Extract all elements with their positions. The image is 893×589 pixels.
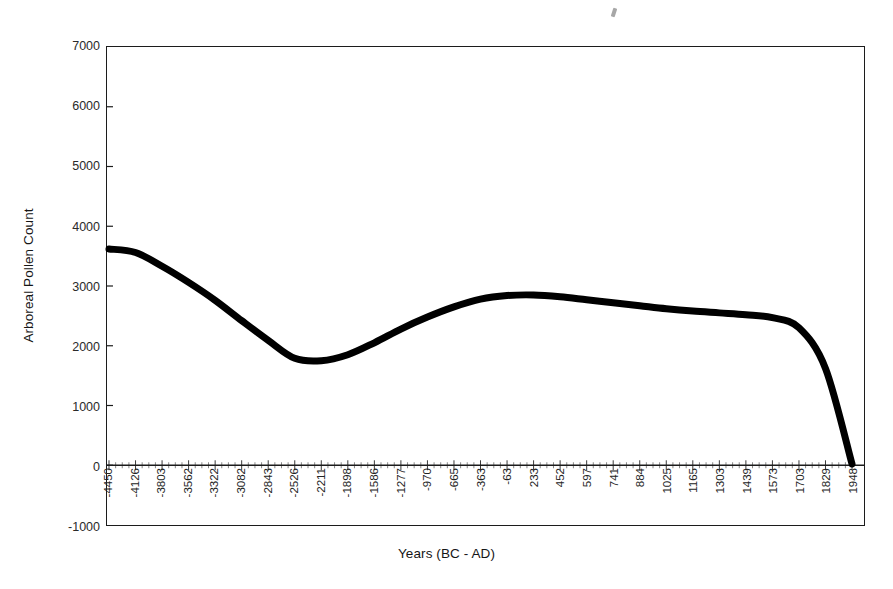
x-tick-label-text: -4450 <box>104 468 113 528</box>
y-tick-label: 4000 <box>38 221 100 234</box>
x-tick-label-text: -1586 <box>370 468 379 528</box>
y-tick-label: 3000 <box>38 281 100 294</box>
x-tick-label-text: -2526 <box>290 468 299 528</box>
y-tick-label: 1000 <box>38 401 100 414</box>
y-tick-label: -1000 <box>38 521 100 534</box>
x-tick-label-text: 1703 <box>796 468 805 528</box>
x-tick-label-text: -4126 <box>131 468 140 528</box>
x-tick-label-text: -1277 <box>397 468 406 528</box>
y-axis-tick-marks <box>107 107 113 466</box>
x-tick-label-text: 1025 <box>663 468 672 528</box>
x-tick-label-text: 1165 <box>689 468 698 528</box>
scan-artifact-mark <box>611 8 618 18</box>
x-tick-label-text: 1829 <box>822 468 831 528</box>
x-tick-label-text: -970 <box>423 468 432 528</box>
x-tick-label-text: 597 <box>583 468 592 528</box>
data-series-line <box>109 249 852 464</box>
x-axis-tick-labels: -4450-4126-3803-3562-3322-3082-2843-2526… <box>106 470 865 530</box>
x-tick-label-text: -63 <box>503 468 512 528</box>
y-tick-label: 2000 <box>38 341 100 354</box>
x-tick-label-text: 1439 <box>743 468 752 528</box>
x-tick-label-text: -363 <box>477 468 486 528</box>
x-tick-label-text: 884 <box>636 468 645 528</box>
x-tick-label-text: -3082 <box>237 468 246 528</box>
x-axis-title: Years (BC - AD) <box>0 546 893 561</box>
x-tick-label-text: 233 <box>530 468 539 528</box>
y-tick-label: 6000 <box>38 100 100 113</box>
y-tick-label: 7000 <box>38 40 100 53</box>
x-tick-label-text: 1303 <box>716 468 725 528</box>
x-tick-label-text: -3562 <box>184 468 193 528</box>
x-tick-label-text: 1948 <box>849 468 858 528</box>
y-tick-label: 5000 <box>38 160 100 173</box>
chart-svg <box>107 47 864 525</box>
x-tick-label-text: -2843 <box>264 468 273 528</box>
x-tick-label-text: 741 <box>610 468 619 528</box>
x-tick-label-text: 452 <box>556 468 565 528</box>
x-tick-label-text: -3322 <box>210 468 219 528</box>
x-tick-label-text: -665 <box>450 468 459 528</box>
y-axis-tick-labels: 7000 6000 5000 4000 3000 2000 1000 0 -10… <box>34 0 100 589</box>
x-tick-label: 1948 <box>847 468 893 528</box>
chart-figure: Arboreal Pollen Count 7000 6000 5000 400… <box>0 0 893 589</box>
y-tick-label: 0 <box>38 461 100 474</box>
x-tick-label-text: 1573 <box>769 468 778 528</box>
x-tick-label-text: -1898 <box>343 468 352 528</box>
x-tick-label-text: -2211 <box>317 468 326 528</box>
plot-area <box>106 46 865 526</box>
x-tick-label-text: -3803 <box>157 468 166 528</box>
